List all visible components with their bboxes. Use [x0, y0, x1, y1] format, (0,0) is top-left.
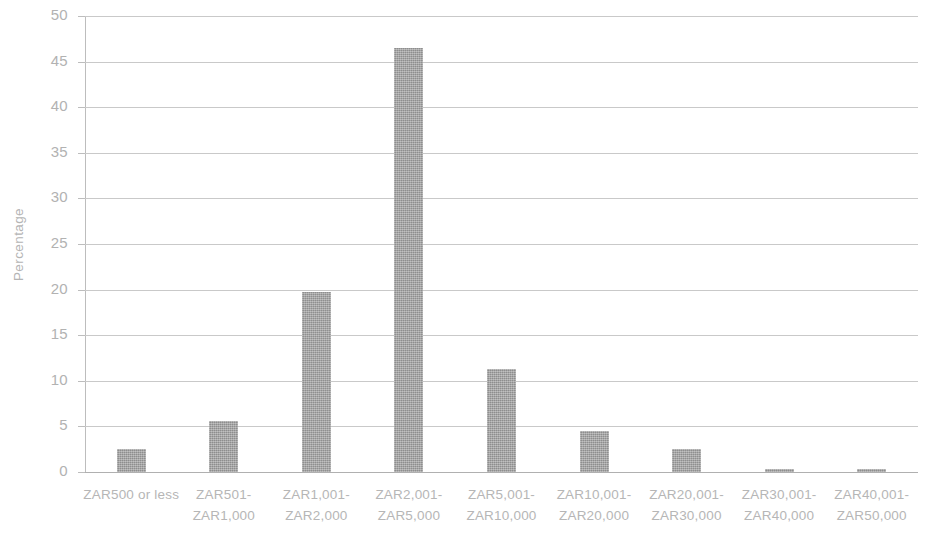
y-tick-label: 35: [28, 143, 68, 160]
gridline: [85, 198, 918, 199]
bar: [394, 48, 423, 472]
y-tick-label: 30: [28, 188, 68, 205]
tick-mark: [78, 335, 85, 336]
x-axis-label-line1: ZAR20,001-: [649, 487, 724, 502]
x-axis-label-line1: ZAR1,001-: [283, 487, 350, 502]
gridline: [85, 107, 918, 108]
bar: [672, 449, 701, 472]
gridline: [85, 244, 918, 245]
bar: [765, 469, 794, 472]
gridline: [85, 335, 918, 336]
bar: [117, 449, 146, 472]
tick-mark: [78, 153, 85, 154]
bar: [580, 431, 609, 472]
tick-mark: [78, 381, 85, 382]
plot-area: [85, 16, 918, 472]
x-axis-label-line1: ZAR40,001-: [834, 487, 909, 502]
gridline: [85, 290, 918, 291]
bar-chart: Percentage 50454035302520151050 ZAR500 o…: [0, 0, 935, 534]
tick-mark: [78, 16, 85, 17]
y-tick-label: 40: [28, 97, 68, 114]
y-tick-label: 45: [28, 52, 68, 69]
y-tick-label: 10: [28, 371, 68, 388]
x-axis-label-line1: ZAR10,001-: [557, 487, 632, 502]
tick-mark: [78, 62, 85, 63]
x-axis-label: ZAR40,001-ZAR50,000: [812, 484, 932, 526]
x-axis-label-line1: ZAR501-: [196, 487, 251, 502]
x-axis-label-line1: ZAR30,001-: [742, 487, 817, 502]
gridline: [85, 16, 918, 17]
y-tick-label: 15: [28, 325, 68, 342]
y-tick-label: 50: [28, 6, 68, 23]
y-axis-title: Percentage: [11, 190, 26, 300]
y-tick-label: 0: [28, 462, 68, 479]
tick-mark: [78, 107, 85, 108]
bar: [487, 369, 516, 472]
bar: [209, 421, 238, 472]
gridline: [85, 62, 918, 63]
bar: [857, 469, 886, 472]
x-axis-label-line1: ZAR2,001-: [375, 487, 442, 502]
y-tick-label: 5: [28, 416, 68, 433]
x-axis-label-line2: ZAR50,000: [812, 505, 932, 526]
tick-mark: [78, 290, 85, 291]
tick-mark: [78, 198, 85, 199]
tick-mark: [78, 426, 85, 427]
y-tick-label: 20: [28, 280, 68, 297]
tick-mark: [78, 472, 85, 473]
bar: [302, 292, 331, 472]
y-tick-label: 25: [28, 234, 68, 251]
x-axis-label-line1: ZAR5,001-: [468, 487, 535, 502]
tick-mark: [78, 244, 85, 245]
gridline: [85, 472, 918, 473]
gridline: [85, 153, 918, 154]
